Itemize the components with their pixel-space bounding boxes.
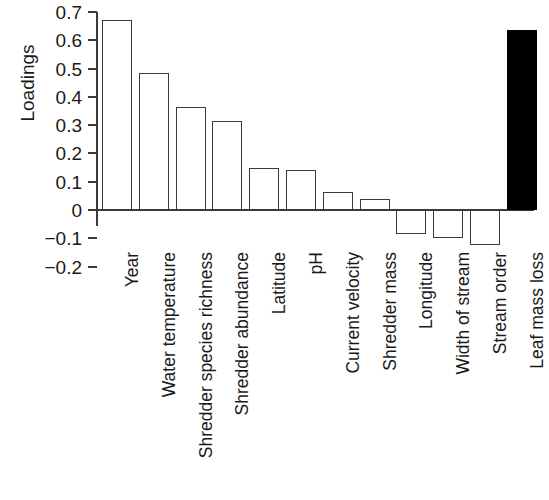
x-category-label: pH: [308, 252, 326, 274]
x-category-label: Latitude: [271, 252, 289, 314]
y-tick-label: 0.5: [56, 59, 82, 78]
bar: [433, 210, 463, 238]
y-tick-label: −0.2: [44, 257, 82, 276]
bar: [286, 170, 316, 210]
bar: [249, 168, 279, 210]
y-tick-mark: [88, 209, 97, 211]
y-axis-line: [96, 12, 98, 226]
bar: [360, 199, 390, 210]
x-category-label: Width of stream: [455, 252, 473, 375]
x-category-label: Shredder mass: [382, 252, 400, 371]
x-category-label: Current velocity: [345, 252, 363, 374]
x-category-label: Year: [124, 252, 142, 287]
y-tick-mark: [88, 11, 97, 13]
y-tick-label: 0.4: [56, 87, 82, 106]
bar: [470, 210, 500, 245]
x-category-label: Stream order: [492, 252, 510, 354]
x-category-label: Shredder species richness: [198, 252, 216, 458]
y-tick-label: 0.2: [56, 144, 82, 163]
plot-area: 0.70.60.50.40.30.20.10−0.1−0.2: [100, 0, 541, 240]
y-tick-mark: [88, 181, 97, 183]
bar: [139, 73, 169, 210]
bar: [323, 192, 353, 210]
y-tick-label: 0.7: [56, 3, 82, 22]
bar: [396, 210, 426, 234]
y-tick-mark: [88, 124, 97, 126]
y-tick-label: 0.6: [56, 31, 82, 50]
bar: [102, 20, 132, 210]
y-tick-mark: [88, 237, 97, 239]
bar: [176, 107, 206, 210]
y-tick-mark: [88, 96, 97, 98]
x-category-label: Longitude: [418, 252, 436, 329]
y-tick-label: 0.3: [56, 116, 82, 135]
x-category-label: Shredder abundance: [234, 252, 252, 415]
x-category-label: Leaf mass loss: [529, 252, 547, 369]
y-tick-label: 0.1: [56, 172, 82, 191]
y-axis-title: Loadings: [17, 0, 39, 173]
bar: [212, 121, 242, 210]
bar-chart-figure: Loadings 0.70.60.50.40.30.20.10−0.1−0.2 …: [0, 0, 549, 500]
bar: [507, 30, 537, 210]
y-tick-mark: [88, 39, 97, 41]
x-category-label: Water temperature: [161, 252, 179, 397]
y-tick-mark: [88, 266, 97, 268]
y-tick-label: −0.1: [44, 229, 82, 248]
y-tick-mark: [88, 68, 97, 70]
y-tick-label: 0: [71, 201, 82, 220]
y-tick-mark: [88, 152, 97, 154]
